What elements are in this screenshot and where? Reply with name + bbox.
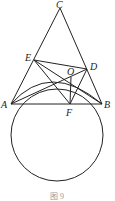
label-O: O: [67, 66, 74, 77]
segment-ED: [34, 60, 87, 69]
label-B: B: [104, 99, 110, 110]
label-C: C: [56, 0, 63, 10]
label-E: E: [24, 52, 31, 63]
label-A: A: [0, 99, 8, 110]
circle: [11, 89, 103, 181]
label-D: D: [89, 61, 98, 72]
label-F: F: [65, 107, 73, 118]
figure-caption: 图 9: [50, 192, 64, 201]
geometry-figure: C E D O A B F 图 9: [0, 0, 115, 201]
